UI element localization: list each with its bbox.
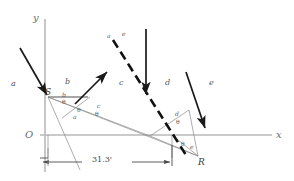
region-label-b: b <box>65 78 70 86</box>
ray-arrow-incident-a <box>20 48 47 95</box>
axis-label-origin: O <box>25 130 33 140</box>
dashed-interface-group <box>113 40 186 155</box>
angle-label-a: a <box>73 114 77 120</box>
dimension-value-label: 31.3' <box>92 156 112 164</box>
thin-ray-s-to-r <box>48 97 198 156</box>
dashed-label-e: e <box>122 31 126 37</box>
region-label-a: a <box>11 80 16 88</box>
ray-arrow-reflected-b <box>75 72 107 104</box>
axis-group <box>40 19 272 172</box>
region-label-c: c <box>119 79 123 87</box>
angle-label-theta-e: θ <box>181 141 185 147</box>
ray-diagram-figure: y O x a b c d e S R a e b θ θ a c θ d θ … <box>0 0 294 181</box>
angle-label-theta-b: θ <box>62 99 66 105</box>
thin-ray-group <box>48 97 198 170</box>
angle-label-theta-c: θ <box>95 111 99 117</box>
angle-label-e: e <box>190 144 194 150</box>
region-label-e: e <box>209 79 214 87</box>
axis-label-y: y <box>33 13 39 23</box>
region-label-d: d <box>165 79 170 87</box>
angle-label-theta-a: θ <box>77 107 81 113</box>
thin-ray-axisnode-to-dnode <box>150 110 189 136</box>
point-label-s: S <box>45 88 51 97</box>
dashed-diagonal-line <box>113 40 186 155</box>
dashed-label-a: a <box>107 33 111 39</box>
axis-label-x: x <box>276 130 282 140</box>
angle-label-theta-d: θ <box>176 119 180 125</box>
point-label-r: R <box>198 158 205 167</box>
ray-arrow-e-right <box>186 72 205 128</box>
angle-label-d: d <box>175 111 179 117</box>
angle-label-c: c <box>97 103 100 109</box>
